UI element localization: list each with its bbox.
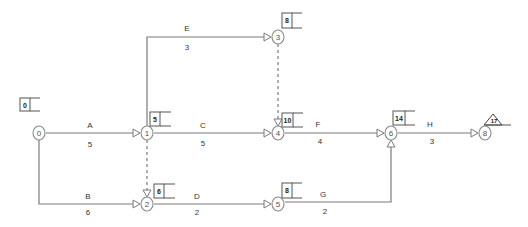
activity-c: C 5 [154, 121, 271, 148]
activity-d: D 2 [154, 192, 271, 217]
arrowhead-icon [377, 129, 384, 137]
node-6: 6 [385, 126, 397, 140]
activity-name: G [320, 190, 326, 199]
dummy-activity-3-4 [274, 44, 282, 126]
node-label: 6 [389, 129, 394, 138]
arrowhead-icon [264, 33, 271, 41]
node-1: 1 [141, 126, 153, 140]
activity-name: D [194, 192, 200, 201]
node-label: 2 [145, 200, 150, 209]
activity-duration: 5 [88, 140, 93, 149]
arrowhead-icon [133, 129, 140, 137]
node-label: 1 [145, 129, 150, 138]
finish-triangle-node-8: 17 [484, 114, 511, 125]
arrowhead-icon [264, 200, 271, 208]
arrowhead-icon [264, 129, 271, 137]
early-time: 14 [395, 115, 403, 122]
early-time: 0 [23, 102, 27, 109]
activity-duration: 5 [201, 139, 206, 148]
node-label: 0 [37, 129, 42, 138]
early-time: 10 [284, 117, 292, 124]
activity-duration: 6 [86, 208, 91, 217]
project-duration: 17 [491, 118, 498, 124]
early-time: 6 [157, 188, 161, 195]
time-box-node-4: 10 [282, 113, 303, 127]
activity-a: A 5 [46, 121, 140, 149]
activity-name: E [184, 24, 189, 33]
activity-duration: 3 [185, 43, 190, 52]
node-label: 3 [276, 33, 281, 42]
time-box-node-5: 8 [282, 183, 302, 198]
arrowhead-icon [133, 200, 140, 208]
time-box-node-6: 14 [393, 111, 415, 125]
arrowhead-icon [471, 129, 478, 137]
activity-e: E 3 [147, 24, 271, 126]
activity-duration: 3 [430, 137, 435, 146]
early-time: 8 [285, 187, 289, 194]
node-5: 5 [272, 197, 284, 211]
time-box-node-2: 6 [154, 184, 175, 198]
node-3: 3 [272, 30, 284, 44]
network-diagram: A 5 B 6 E 3 C 5 D 2 F 4 G 2 [0, 0, 528, 227]
node-label: 8 [483, 129, 488, 138]
time-box-node-0: 0 [20, 98, 40, 111]
time-box-node-1: 5 [150, 112, 171, 126]
dummy-activity-1-2 [143, 140, 151, 197]
activity-duration: 2 [323, 207, 328, 216]
node-label: 5 [276, 200, 281, 209]
activity-b: B 6 [39, 140, 140, 217]
arrowhead-icon [143, 190, 151, 197]
early-time: 5 [153, 116, 157, 123]
node-label: 4 [276, 129, 281, 138]
activity-name: A [87, 121, 93, 130]
activity-h: H 3 [398, 120, 478, 146]
node-4: 4 [272, 126, 284, 140]
activity-name: B [85, 192, 90, 201]
time-box-node-3: 8 [282, 13, 302, 28]
activity-name: F [316, 120, 321, 129]
activity-name: H [427, 120, 433, 129]
arrowhead-icon [387, 140, 395, 147]
activity-name: C [200, 121, 206, 130]
activity-g: G 2 [285, 140, 395, 216]
node-8: 8 [479, 126, 491, 140]
activity-duration: 2 [195, 208, 200, 217]
arrowhead-icon [274, 119, 282, 126]
activity-f: F 4 [285, 120, 384, 146]
activity-duration: 4 [318, 137, 323, 146]
node-2: 2 [141, 197, 153, 211]
node-0: 0 [33, 126, 45, 140]
early-time: 8 [285, 17, 289, 24]
